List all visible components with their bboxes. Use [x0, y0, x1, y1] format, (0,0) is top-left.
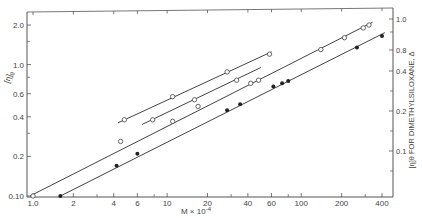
- y-right-axis-ticks: 1.00.80.40.20.1: [389, 15, 406, 171]
- filled-point: [135, 152, 139, 156]
- filled-point: [225, 108, 229, 112]
- filled-point: [280, 81, 284, 85]
- open-point: [192, 98, 196, 102]
- y-tick-label: 0.4: [13, 113, 25, 122]
- y-tick-label: 1.0: [13, 61, 25, 70]
- filled-point: [115, 164, 119, 168]
- x-tick-label: 4: [112, 199, 117, 208]
- x-axis-ticks: 1.024610204060100200400: [27, 8, 389, 208]
- y-right-tick-label: 0.1: [396, 147, 406, 156]
- open-point: [249, 81, 253, 85]
- y-right-axis-label: [η]θ FOR DIMETHYLSILOXANE, Δ: [407, 51, 416, 168]
- fit-line: [142, 67, 261, 124]
- y-right-tick-label: 0.2: [396, 107, 406, 116]
- x-tick-label: 60: [267, 199, 276, 208]
- y-right-tick-label: 1.0: [396, 15, 406, 24]
- x-tick-label: 1.0: [27, 199, 39, 208]
- x-tick-label: 2: [71, 199, 76, 208]
- triangle-point: [170, 94, 174, 98]
- open-point: [256, 78, 260, 82]
- x-tick-label: 400: [375, 199, 389, 208]
- open-point: [319, 47, 323, 51]
- open-point: [196, 104, 200, 108]
- y-tick-label: 0.6: [13, 90, 25, 99]
- y-tick-label: 0.2: [13, 152, 25, 161]
- y-right-tick-label: 0.4: [396, 67, 406, 76]
- y-tick-label: 2.0: [13, 21, 25, 30]
- open-point: [361, 26, 365, 30]
- x-tick-label: 100: [295, 199, 309, 208]
- filled-point: [58, 194, 62, 198]
- open-point: [342, 36, 346, 40]
- filled-point: [271, 85, 275, 89]
- plot-frame: [27, 8, 393, 197]
- y-right-tick-label: 0.8: [396, 46, 406, 55]
- filled-point: [380, 34, 384, 38]
- open-point: [170, 119, 174, 123]
- fit-lines: [30, 22, 385, 196]
- fit-line: [60, 33, 384, 196]
- y-left-axis-ticks: 0.100.20.40.61.02.0: [8, 21, 31, 201]
- triangle-point: [267, 52, 271, 56]
- y-tick-label: 0.10: [8, 192, 24, 201]
- x-tick-label: 40: [243, 199, 252, 208]
- open-point: [234, 78, 238, 82]
- filled-point: [355, 45, 359, 49]
- data-points: [31, 23, 384, 198]
- triangle-point: [225, 70, 229, 74]
- filled-point: [286, 79, 290, 83]
- open-point: [118, 139, 122, 143]
- filled-point: [238, 102, 242, 106]
- open-point: [150, 118, 154, 122]
- x-tick-label: 10: [163, 199, 172, 208]
- viscosity-molecular-weight-chart: 1.024610204060100200400 0.100.20.40.61.0…: [0, 0, 422, 218]
- open-point: [367, 23, 371, 27]
- x-tick-label: 200: [335, 199, 349, 208]
- x-tick-label: 6: [135, 199, 140, 208]
- triangle-point: [122, 118, 126, 122]
- open-point: [31, 194, 35, 198]
- y-left-axis-label: [η]θ: [2, 69, 16, 85]
- x-axis-label: M × 10-4: [181, 206, 212, 216]
